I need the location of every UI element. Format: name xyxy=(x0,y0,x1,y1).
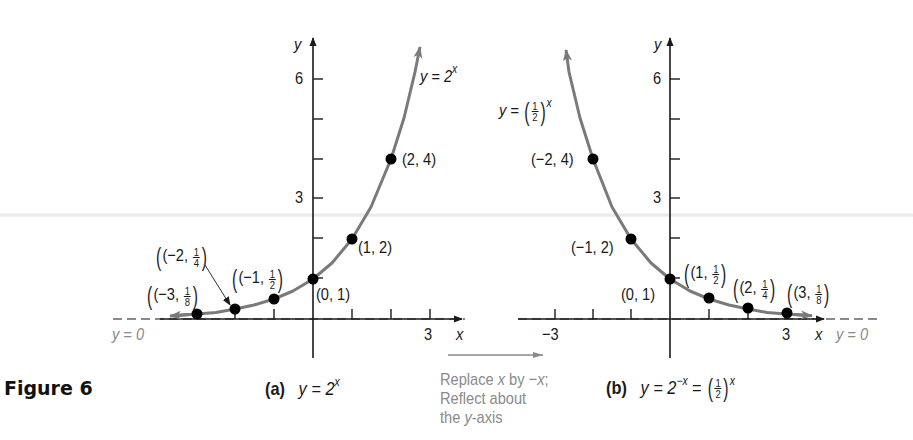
point-label-b-0-1: (0, 1) xyxy=(621,286,655,303)
panel-a-tick-6: 6 xyxy=(295,70,303,87)
point-label-3-eighth: ((3, 18) xyxy=(786,281,831,307)
panel-a-x-axis-label: x xyxy=(456,326,463,343)
panel-b-curve-label: y = (12)x xyxy=(499,97,552,125)
panel-b-tick-6: 6 xyxy=(653,70,661,87)
point-label-0-1: (0, 1) xyxy=(316,286,350,303)
point-label-neg3-eighth: ((−3, 18) xyxy=(146,283,199,309)
panel-b-y-axis-label: y xyxy=(654,36,661,53)
point-label-1-half: ((1, 12) xyxy=(683,261,728,287)
panel-a-tick-x3: 3 xyxy=(424,326,432,343)
panel-b-caption: (b) y = 2−x = (12)x xyxy=(606,373,735,404)
figure-title: Figure 6 xyxy=(4,377,93,399)
point-label-neg2-4: (−2, 4) xyxy=(531,151,574,168)
point-label-2-quarter: ((2, 14) xyxy=(732,276,777,302)
panel-a-curve-label: y = 2x xyxy=(420,63,457,85)
transform-note: Replace x by −x; Reflect about the y-axi… xyxy=(440,370,549,427)
point-label-neg1-2: (−1, 2) xyxy=(571,239,614,256)
panel-b-tick-xm3: −3 xyxy=(542,326,559,343)
panel-a-asymptote-label: y = 0 xyxy=(112,326,144,343)
panel-b-asymptote-label: y = 0 xyxy=(836,326,868,343)
point-label-2-4: (2, 4) xyxy=(402,151,436,168)
point-label-neg2-quarter: ((−2, 14) xyxy=(155,244,208,270)
point-label-1-2: (1, 2) xyxy=(358,239,392,256)
panel-b-x-axis-label: x xyxy=(815,326,822,343)
panel-b-tick-3: 3 xyxy=(653,189,661,206)
panel-b-tick-x3: 3 xyxy=(782,326,790,343)
point-label-neg1-half: ((−1, 12) xyxy=(231,266,284,292)
panel-a-y-axis-label: y xyxy=(294,36,301,53)
panel-a-tick-3: 3 xyxy=(295,189,303,206)
panel-a-points xyxy=(192,154,397,320)
panel-a-caption: (a) y = 2x xyxy=(265,375,340,400)
